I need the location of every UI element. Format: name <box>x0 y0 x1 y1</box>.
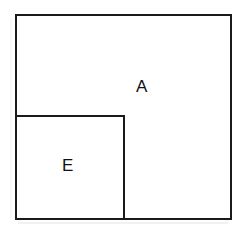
region-label-a: A <box>136 78 148 95</box>
diagram-canvas: A E <box>0 0 246 234</box>
scan-artifact-left <box>10 18 12 218</box>
region-label-e: E <box>62 157 74 174</box>
scan-artifact-bottom <box>18 222 228 224</box>
